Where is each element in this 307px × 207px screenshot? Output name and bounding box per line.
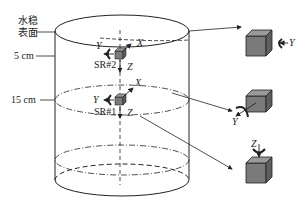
sr2-x-label: X [137, 38, 143, 48]
water-surface-label-1: 水稳 [18, 16, 38, 26]
sr1-y-label: Y [93, 95, 99, 105]
sr2-y-label: Y [96, 41, 102, 51]
sr1-z-label: Z [127, 108, 133, 118]
inset-cube-3 [246, 144, 272, 183]
inset1-y-label: Y [289, 38, 295, 48]
inset3-z-label: Z [251, 139, 257, 149]
sensor-sr1-label: SR#1 [94, 107, 116, 117]
cylinder-diagram [0, 0, 307, 207]
cylinder-top [55, 15, 189, 47]
sr2-z-label: Z [127, 62, 133, 72]
water-surface-label-2: 表面 [18, 28, 38, 38]
inset-cube-1 [246, 30, 288, 56]
inset2-y-label: Y [232, 117, 238, 127]
sr1-x-label: X [135, 78, 141, 88]
depth-15cm-label: 15 cm [11, 95, 36, 105]
inset-cube-2 [236, 90, 272, 117]
sensor-sr2-label: SR#2 [94, 60, 116, 70]
depth-5cm-label: 5 cm [14, 51, 34, 61]
